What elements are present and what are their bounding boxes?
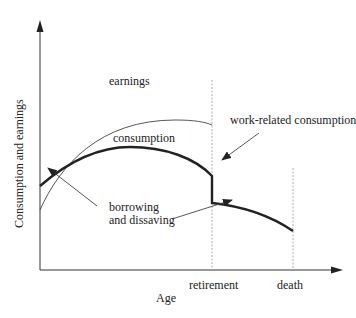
borrowing-label-line2: and dissaving: [109, 213, 175, 227]
consumption-label: consumption: [113, 131, 175, 145]
borrowing-arrow-right: [172, 200, 232, 219]
earnings-label: earnings: [109, 74, 150, 88]
borrowing-arrow-left: [48, 168, 97, 206]
retirement-tick-label: retirement: [189, 278, 239, 292]
life-cycle-diagram: earnings consumption work-related consum…: [0, 0, 356, 318]
death-tick-label: death: [277, 278, 303, 292]
x-axis-label: Age: [156, 291, 176, 305]
x-axis-arrow-icon: [331, 267, 343, 274]
diagram-canvas: earnings consumption work-related consum…: [0, 0, 356, 318]
work-related-label: work-related consumption: [230, 113, 356, 127]
borrowing-label-line1: borrowing: [109, 200, 159, 214]
y-axis-label: Consumption and earnings: [12, 99, 26, 228]
work-related-arrow: [222, 133, 259, 160]
y-axis-arrow-icon: [37, 20, 44, 32]
